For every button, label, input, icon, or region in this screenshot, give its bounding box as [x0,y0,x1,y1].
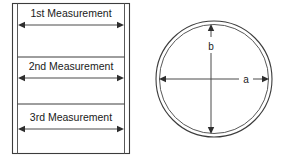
arrowhead-left-3rd-measurement [18,126,25,132]
arrowhead-left-a [159,76,166,82]
dimension-a: a [159,70,269,86]
arrowhead-left-2nd-measurement [18,75,25,81]
circular-container-panel: a b [156,21,272,137]
arrowhead-right-1st-measurement [117,22,124,28]
figure-root: 1st Measurement 2nd Measurement 3rd Meas… [0,0,283,158]
rectangular-container-panel: 1st Measurement 2nd Measurement 3rd Meas… [13,4,130,154]
arrowhead-right-2nd-measurement [117,75,124,81]
dimension-label-2nd-measurement: 2nd Measurement [29,60,114,72]
arrowhead-right-a [262,76,269,82]
arrowhead-right-3rd-measurement [117,126,124,132]
dimension-label-b: b [208,41,214,52]
dimension-label-3rd-measurement: 3rd Measurement [30,111,112,123]
dimension-label-1st-measurement: 1st Measurement [30,7,111,19]
dimension-1st-measurement: 1st Measurement [18,7,124,28]
dimension-3rd-measurement: 3rd Measurement [18,111,124,132]
arrowhead-left-1st-measurement [18,22,25,28]
dimension-2nd-measurement: 2nd Measurement [18,60,124,81]
measurement-diagram: 1st Measurement 2nd Measurement 3rd Meas… [0,0,283,158]
dimension-label-a: a [243,74,249,85]
